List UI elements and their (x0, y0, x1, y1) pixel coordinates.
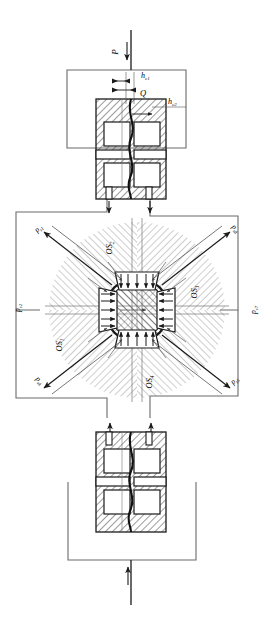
lower-cavity-left-top (104, 449, 130, 473)
upper-outlet-right (146, 187, 152, 199)
label-p-s8: ps8 (228, 222, 242, 236)
upper-cavity-right-top (134, 122, 160, 146)
schematic-svg: P hc1 Q (0, 0, 275, 632)
label-p-s1: ps1 (32, 222, 45, 235)
label-p-s2: ps2 (13, 303, 23, 313)
bottom-return-group (128, 560, 131, 605)
upper-die-assembly (96, 99, 166, 213)
flow-label: Q (140, 88, 146, 98)
upper-slot-right (134, 150, 166, 159)
lower-die-assembly (96, 423, 166, 532)
input-force-label: P (110, 49, 120, 56)
upper-outlet-left (106, 187, 112, 199)
lower-slot-left (96, 477, 130, 486)
gap-label-c2: hc2 (168, 97, 177, 107)
input-force-group: P (110, 30, 131, 70)
label-p-s7: ps7 (249, 305, 259, 315)
upper-cavity-right-bot (134, 163, 160, 187)
lower-inlet-right (146, 432, 152, 445)
upper-cavity-left-bot (104, 163, 130, 187)
upper-slot-left (96, 150, 130, 159)
figure-canvas: P hc1 Q (0, 0, 275, 632)
gap-label-c1: hc1 (141, 71, 150, 81)
lower-slot-right (134, 477, 166, 486)
lower-inlet-left (106, 432, 112, 445)
label-p-s5: ps5 (228, 374, 242, 388)
label-p-s4: ps4 (32, 374, 46, 388)
upper-cavity-left-top (104, 122, 130, 146)
lower-cavity-left-bot (104, 490, 130, 514)
radial-pressure-hub: ps1 ps8 ps2 ps7 ps4 ps5 OS2 OS3 OS1 OS4 (13, 218, 259, 402)
lower-cavity-right-top (134, 449, 160, 473)
lower-cavity-right-bot (134, 490, 160, 514)
